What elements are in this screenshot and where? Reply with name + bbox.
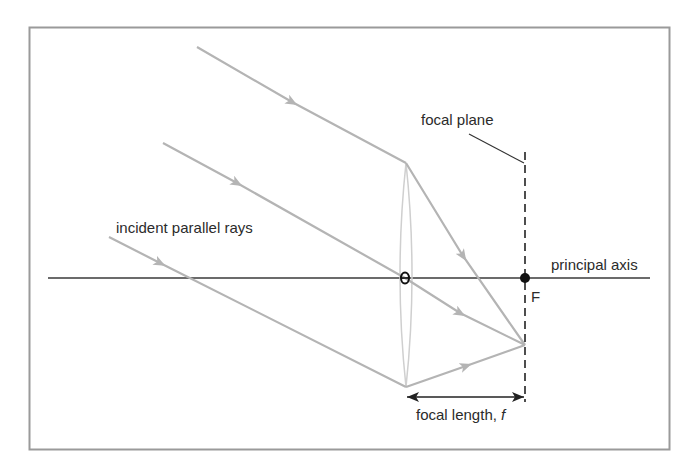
focal-length-text: focal length, — [416, 406, 501, 423]
focal-point-label: F — [531, 289, 540, 304]
focal-length-label: focal length, f — [416, 407, 505, 422]
incident-rays-label: incident parallel rays — [116, 220, 253, 235]
principal-axis-label: principal axis — [551, 257, 638, 272]
focal-plane-label: focal plane — [421, 112, 494, 127]
focal-point-dot — [520, 273, 530, 283]
lens-diagram — [0, 0, 694, 465]
focal-length-symbol: f — [501, 406, 505, 423]
diagram-frame — [30, 28, 670, 450]
